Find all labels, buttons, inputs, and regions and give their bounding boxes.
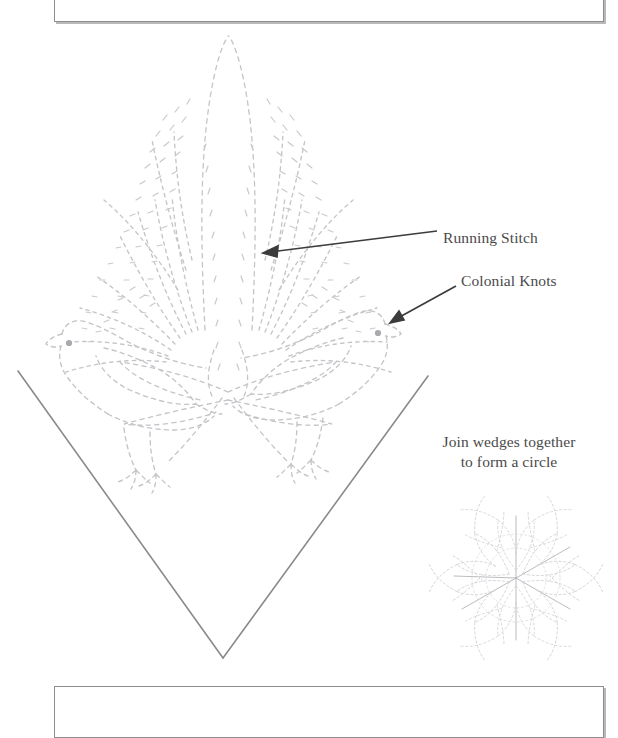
plume-seed-stitches — [82, 99, 375, 370]
label-join-wedges: Join wedges together to form a circle — [419, 432, 599, 472]
page-frame-bottom-rule — [54, 686, 604, 738]
left-bird-eye-knot — [66, 340, 72, 346]
page-frame-top-rule — [54, 0, 604, 22]
label-join-wedges-line2: to form a circle — [419, 452, 599, 472]
annotation-arrows — [263, 231, 456, 323]
arrow-running-stitch — [263, 231, 437, 257]
right-bird-outline — [225, 311, 401, 483]
petal-spray — [120, 350, 336, 462]
assembled-circle-thumbnail — [429, 495, 604, 661]
label-running-stitch: Running Stitch — [443, 228, 538, 248]
center-plume-stem — [202, 36, 255, 330]
wedge-outline — [18, 371, 428, 658]
label-colonial-knots: Colonial Knots — [461, 271, 557, 291]
center-plume-fronds — [66, 132, 391, 372]
label-join-wedges-line1: Join wedges together — [419, 432, 599, 452]
right-bird-eye-knot — [375, 330, 381, 336]
left-bird-outline — [46, 321, 222, 493]
arrow-colonial-knots — [390, 286, 456, 323]
